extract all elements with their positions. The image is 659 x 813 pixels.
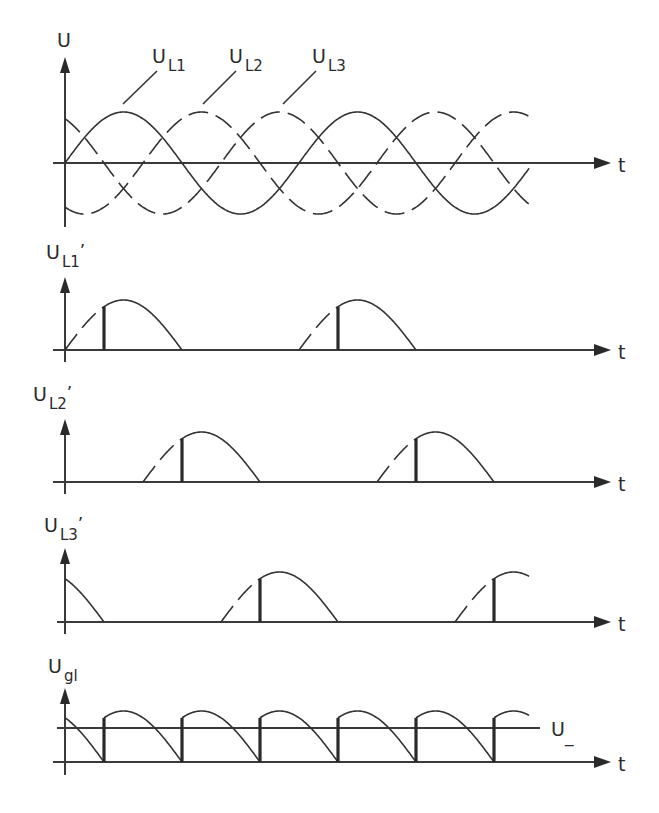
label-UL1: UL1 [152, 45, 186, 75]
rectifier-waveform-diagram: t U UL1 UL2 UL3 t UL1’ t UL2’ t [0, 0, 659, 813]
y-axis-label: UL2’ [33, 383, 72, 413]
output-segment [494, 711, 529, 718]
y-axis-arrow-icon [60, 548, 70, 564]
uncontrolled-segment [377, 439, 416, 482]
y-axis-label: UL3’ [44, 514, 83, 544]
label-UL3: UL3 [312, 45, 346, 75]
output-segment [416, 711, 494, 762]
y-axis-arrow-icon [60, 57, 70, 73]
panel-phase-voltages: t U UL1 UL2 UL3 [53, 29, 625, 227]
panel-UL3-prime: t UL3’ [44, 514, 625, 635]
curve-Ugl [65, 711, 529, 762]
panel-UL1-prime: t UL1’ [46, 241, 625, 363]
y-axis-label: UL1’ [46, 241, 85, 271]
x-axis-arrow-icon [594, 756, 611, 768]
conduction-segment [182, 432, 260, 482]
panel-UL2-prime: t UL2’ [33, 383, 625, 495]
conduction-segment [338, 300, 416, 350]
y-axis-label: U [57, 29, 71, 51]
uncontrolled-segment [455, 579, 494, 622]
conduction-segment [104, 300, 182, 350]
y-axis-arrow-icon [60, 419, 70, 435]
conduction-segment [260, 572, 338, 622]
output-segment [260, 711, 338, 762]
y-axis-arrow-icon [60, 277, 70, 293]
uncontrolled-segment [143, 439, 182, 482]
t-axis-label: t [618, 341, 625, 363]
leader-line-UL1 [123, 71, 157, 104]
t-axis-label: t [618, 753, 625, 775]
uncontrolled-segment [299, 307, 338, 350]
x-axis-arrow-icon [594, 616, 611, 628]
y-axis-label: Ugl [48, 655, 78, 685]
t-axis-label: t [618, 154, 625, 176]
conduction-segment [494, 572, 529, 579]
mean-voltage-label: U_ [551, 718, 574, 747]
x-axis-arrow-icon [594, 157, 611, 169]
curve-UL3-prime [65, 572, 529, 622]
output-segment [65, 718, 104, 762]
output-segment [182, 711, 260, 762]
output-segment [338, 711, 416, 762]
panel-Ugl: t Ugl U_ [48, 655, 625, 775]
t-axis-label: t [618, 473, 625, 495]
curve-UL1-prime [65, 300, 416, 350]
conduction-segment [416, 432, 494, 482]
uncontrolled-segment [65, 307, 104, 350]
y-axis-arrow-icon [60, 688, 70, 704]
t-axis-label: t [618, 613, 625, 635]
curve-UL2-prime [143, 432, 494, 482]
uncontrolled-segment [221, 579, 260, 622]
leader-line-UL3 [283, 71, 316, 104]
label-UL2: UL2 [229, 45, 263, 75]
x-axis-arrow-icon [594, 344, 611, 356]
leader-line-UL2 [203, 71, 236, 104]
x-axis-arrow-icon [594, 476, 611, 488]
output-segment [104, 711, 182, 762]
conduction-segment [65, 579, 104, 622]
